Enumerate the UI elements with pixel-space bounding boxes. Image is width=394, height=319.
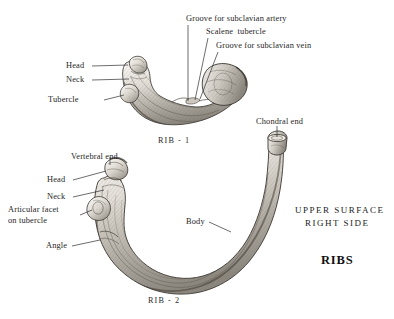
label-rib1-neck: Neck — [66, 75, 84, 85]
label-rib1-head: Head — [66, 61, 84, 71]
leader-head — [92, 65, 128, 66]
label-rib2-chondral-end: Chondral end — [256, 117, 303, 127]
label-rib1-groove-subclavian-vein: Groove for subclavian vein — [216, 41, 311, 51]
label-rib2-angle: Angle — [46, 241, 67, 251]
label-rib2-neck: Neck — [47, 192, 65, 202]
page-title: RIBS — [321, 253, 353, 268]
caption-rib-1: RIB - 1 — [158, 136, 190, 145]
caption-rib-2: RIB - 2 — [148, 296, 180, 305]
label-rib1-groove-subclavian-artery: Groove for subclavian artery — [186, 14, 287, 24]
ribs-illustration — [0, 0, 394, 319]
label-rib2-articular-facet-on-tubercle: Articular facet on tubercle — [8, 205, 59, 226]
rib-1-leader-lines — [92, 25, 218, 101]
label-rib2-head: Head — [47, 175, 65, 185]
label-rib1-scalene-tubercle: Scalene tubercle — [206, 27, 266, 37]
ribs-anatomy-plate: Head Neck Tubercle Groove for subclavian… — [0, 0, 394, 319]
orientation-line-upper-surface: UPPER SURFACE — [295, 205, 385, 215]
label-rib2-body: Body — [186, 217, 205, 227]
label-rib2-vertebral-end: Vertebral end — [71, 152, 118, 162]
label-rib1-tubercle: Tubercle — [48, 95, 79, 105]
leader-body — [209, 222, 231, 232]
orientation-line-right-side: RIGHT SIDE — [305, 218, 370, 228]
leader-angle — [72, 240, 100, 246]
rib-1-bone — [110, 55, 255, 135]
